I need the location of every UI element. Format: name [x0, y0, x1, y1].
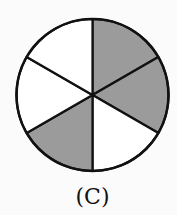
fraction-circle-diagram — [0, 0, 177, 215]
option-label: (C) — [0, 184, 177, 209]
